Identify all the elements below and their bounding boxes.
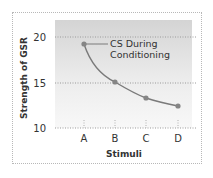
x-tick-a: A (81, 133, 88, 144)
point-d (175, 103, 180, 108)
y-tick-20: 20 (33, 32, 46, 43)
annotation-line2: Conditioning (110, 49, 170, 60)
point-b (112, 79, 117, 84)
x-tick-d: D (174, 133, 182, 144)
y-tick-10: 10 (33, 123, 46, 134)
point-c (143, 95, 148, 100)
annotation-line1: CS During (110, 38, 158, 49)
x-tick-b: B (112, 133, 119, 144)
y-tick-15: 15 (33, 78, 46, 89)
y-axis-title: Strength of GSR (19, 37, 29, 119)
gsr-line-chart: 20 15 10 Strength of GSR A B C D Stimuli… (0, 0, 213, 178)
x-tick-c: C (143, 133, 150, 144)
point-a (81, 41, 86, 46)
x-axis-title: Stimuli (106, 149, 142, 159)
plot-area (55, 20, 192, 128)
